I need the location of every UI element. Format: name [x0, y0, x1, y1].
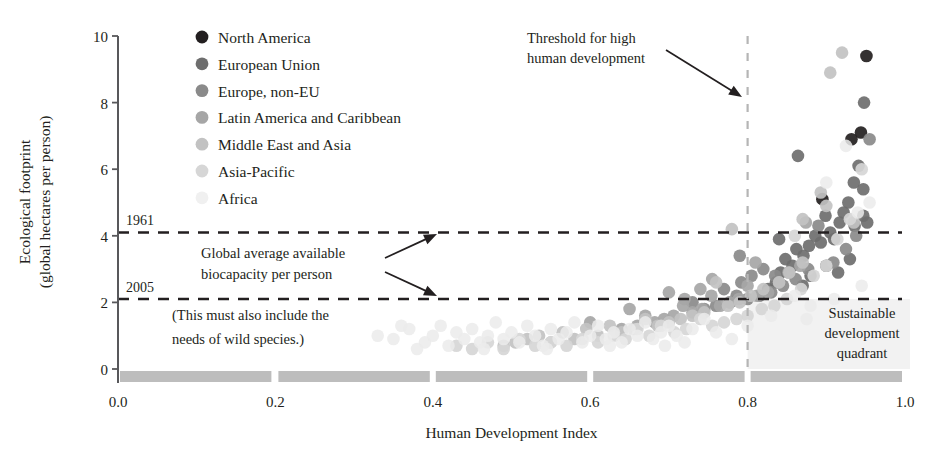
data-point	[807, 269, 820, 282]
data-point	[804, 299, 817, 312]
data-point	[623, 303, 636, 316]
data-point	[861, 216, 874, 229]
y-tick-label: 8	[101, 96, 109, 112]
threshold-annotation-line2: human development	[527, 50, 645, 66]
quadrant-annotation-line2: development	[825, 325, 900, 341]
data-point	[722, 299, 735, 312]
data-point	[749, 256, 762, 269]
data-point	[545, 323, 558, 336]
legend-label: Europe, non-EU	[218, 83, 320, 100]
data-point	[560, 326, 573, 339]
data-point	[698, 313, 711, 326]
legend-swatch	[196, 111, 209, 124]
data-point	[820, 200, 833, 213]
baseline-band-segment	[278, 371, 429, 382]
baseline-band-segment	[593, 371, 744, 382]
data-point	[792, 150, 805, 163]
data-point	[442, 339, 455, 352]
data-point	[726, 333, 739, 346]
data-point	[387, 333, 400, 346]
baseline-band-segment	[120, 371, 271, 382]
x-tick-label: 0.0	[109, 394, 128, 410]
y-tick-label: 0	[101, 362, 109, 378]
data-point	[855, 279, 868, 292]
data-point	[427, 329, 440, 342]
data-point	[857, 183, 870, 196]
y-tick-label: 4	[101, 229, 109, 245]
data-point	[604, 339, 617, 352]
data-point	[686, 323, 699, 336]
data-point	[863, 196, 876, 209]
data-point	[851, 206, 864, 219]
legend-swatch	[196, 57, 209, 70]
wild-species-annotation-line2: needs of wild species.)	[172, 331, 304, 348]
legend-item-middle-east-and-asia[interactable]: Middle East and Asia	[196, 136, 352, 153]
y-axis-title-line1: Ecological footprint	[16, 139, 33, 264]
data-point	[796, 256, 809, 269]
data-point	[639, 316, 652, 329]
data-point	[710, 276, 723, 289]
data-point	[371, 329, 384, 342]
wild-species-annotation-line1: (This must also include the	[172, 307, 329, 324]
data-point	[678, 336, 691, 349]
x-tick-label: 1.0	[896, 394, 915, 410]
data-point	[466, 323, 479, 336]
data-point	[773, 233, 786, 246]
data-point	[765, 309, 778, 322]
data-point	[694, 283, 707, 296]
legend-label: Asia-Pacific	[218, 163, 295, 180]
data-point	[779, 253, 792, 266]
data-point	[836, 46, 849, 59]
data-point	[733, 249, 746, 262]
data-point	[840, 243, 853, 256]
scatter-chart: 19612005 02468100.00.20.40.60.81.0 Thres…	[0, 0, 951, 461]
data-point	[541, 343, 554, 356]
biocapacity-annotation-line1: Global average available	[201, 245, 345, 261]
data-point	[757, 283, 770, 296]
quadrant-annotation-line1: Sustainable	[829, 305, 896, 321]
data-point	[482, 329, 495, 342]
data-point	[718, 316, 731, 329]
year-label-2005: 2005	[126, 280, 154, 295]
legend-swatch	[196, 191, 209, 204]
data-point	[773, 276, 786, 289]
year-label-1961: 1961	[126, 213, 154, 228]
chart-root: 19612005 02468100.00.20.40.60.81.0 Thres…	[0, 0, 951, 461]
data-point	[434, 319, 447, 332]
chart-background	[0, 0, 951, 461]
legend-swatch	[196, 138, 209, 151]
data-point	[796, 213, 809, 226]
y-tick-label: 2	[101, 295, 109, 311]
legend-item-latin-america-and-caribbean[interactable]: Latin America and Caribbean	[196, 109, 402, 126]
legend-label: North America	[218, 29, 311, 46]
data-point	[863, 133, 876, 146]
data-point	[659, 339, 672, 352]
data-point	[631, 329, 644, 342]
data-point	[458, 333, 471, 346]
data-point	[489, 316, 502, 329]
legend-swatch	[196, 31, 209, 44]
quadrant-annotation-line3: quadrant	[837, 345, 888, 361]
threshold-annotation-line1: Threshold for high	[527, 30, 636, 46]
data-point	[790, 243, 803, 256]
data-point	[858, 96, 871, 109]
data-point	[710, 326, 723, 339]
baseline-band-segment	[751, 371, 902, 382]
data-point	[513, 336, 526, 349]
legend-swatch	[196, 165, 209, 178]
data-point	[860, 50, 873, 63]
x-tick-label: 0.6	[581, 394, 600, 410]
data-point	[584, 329, 597, 342]
data-point	[411, 343, 424, 356]
legend-label: Africa	[218, 190, 258, 207]
baseline-band-segment	[436, 371, 587, 382]
data-point	[395, 319, 408, 332]
data-point	[812, 220, 825, 233]
legend-label: European Union	[218, 56, 320, 73]
biocapacity-annotation-line2: biocapacity per person	[201, 266, 333, 282]
data-point	[663, 319, 676, 332]
y-axis-title-line2: (global hectares per person)	[36, 116, 54, 289]
data-point	[831, 233, 844, 246]
x-axis-grey-band	[120, 371, 902, 382]
data-point	[505, 326, 518, 339]
